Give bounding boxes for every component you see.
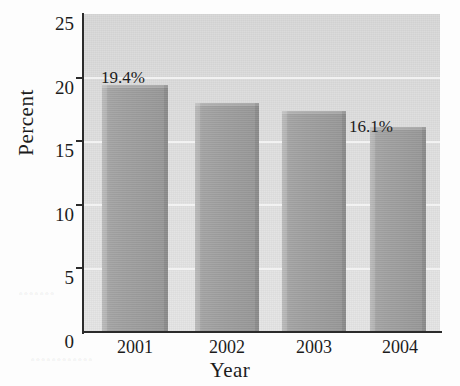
y-tick-mark-10 [76, 204, 82, 206]
bar-shadow-right [164, 85, 168, 332]
bar-shadow-right [342, 111, 346, 332]
bar-surface [195, 103, 259, 332]
bar-surface [282, 111, 346, 332]
y-tick-label: 0 [4, 332, 74, 351]
bar-surface [370, 127, 426, 332]
x-tick-label-2004: 2004 [360, 338, 440, 356]
bar-2004[interactable] [370, 127, 426, 332]
y-tick-mark-15 [76, 140, 82, 142]
y-tick-label: 10 [4, 205, 74, 224]
bar-shadow-right [422, 127, 426, 332]
bar-highlight-left [370, 127, 375, 332]
y-axis-line [82, 13, 84, 334]
y-axis-title: Percent [14, 43, 39, 203]
x-tick-label-2003: 2003 [274, 338, 354, 356]
x-tick-label-2002: 2002 [187, 338, 267, 356]
data-label-2004: 16.1% [349, 118, 393, 135]
bar-surface [102, 85, 168, 332]
y-tick-mark-5 [76, 267, 82, 269]
bar-chart-figure: ••••••• •••••••••••• [0, 0, 460, 386]
bar-2003[interactable] [282, 111, 346, 332]
data-label-2001: 19.4% [101, 69, 145, 86]
bar-highlight-left [282, 111, 287, 332]
bar-2001[interactable] [102, 85, 168, 332]
x-axis-title: Year [0, 358, 460, 383]
x-axis-line [82, 331, 442, 333]
y-tick-label: 5 [4, 268, 74, 287]
bar-highlight-left [195, 103, 200, 332]
bar-2002[interactable] [195, 103, 259, 332]
y-tick-label: 25 [4, 14, 74, 33]
bar-highlight-top [282, 111, 346, 114]
y-tick-mark-20 [76, 77, 82, 79]
bar-shadow-right [255, 103, 259, 332]
bar-highlight-left [102, 85, 107, 332]
x-tick-label-2001: 2001 [95, 338, 175, 356]
scan-bleed-artifact: ••••••• [18, 286, 55, 303]
plot-area [84, 14, 440, 332]
bar-highlight-top [195, 103, 259, 106]
